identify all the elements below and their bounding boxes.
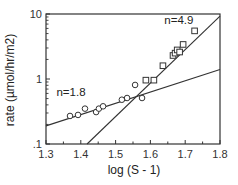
slope-annotation: n=4.9 <box>164 14 193 26</box>
slope-annotation: n=1.8 <box>56 86 85 98</box>
square-marker <box>160 63 166 69</box>
square-marker <box>192 28 198 34</box>
x-tick-label: 1.4 <box>73 148 88 160</box>
data-markers <box>67 28 197 119</box>
circle-marker <box>75 112 81 118</box>
fit-lines <box>46 16 220 144</box>
x-axis-title: log (S - 1) <box>108 163 161 177</box>
circle-marker <box>124 95 130 101</box>
x-tick-label: 1.8 <box>212 148 227 160</box>
square-marker <box>177 49 183 55</box>
circle-marker <box>139 95 145 101</box>
x-tick-label: 1.7 <box>178 148 193 160</box>
circle-marker <box>100 104 106 110</box>
axis-labels: 1.31.41.51.61.71.8.1110n=1.8n=4.9 <box>30 8 228 160</box>
chart: 1.31.41.51.61.71.8.1110n=1.8n=4.9 rate (… <box>0 0 238 185</box>
circle-marker <box>82 106 88 112</box>
x-tick-label: 1.6 <box>143 148 158 160</box>
y-tick-label: 10 <box>30 8 42 20</box>
y-tick-label: 1 <box>36 73 42 85</box>
square-marker <box>151 77 157 83</box>
x-tick-label: 1.5 <box>108 148 123 160</box>
y-axis-title: rate (µmol/hr/m2) <box>3 34 17 126</box>
circle-marker <box>67 113 73 119</box>
y-tick-label: .1 <box>33 138 42 150</box>
circle-marker <box>132 82 138 88</box>
square-marker <box>180 42 186 48</box>
square-marker <box>143 77 149 83</box>
